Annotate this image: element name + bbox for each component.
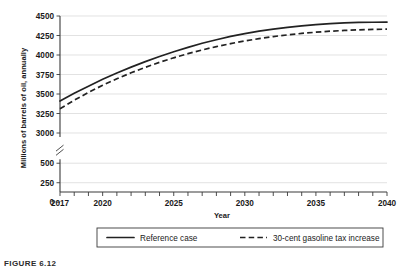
- figure-container: 02505003000325035003750400042504500 2017…: [0, 0, 413, 275]
- y-axis-group: [57, 16, 61, 202]
- gridlines-group: [60, 16, 387, 183]
- series-line-tax-increase: [60, 29, 387, 109]
- x-tick-label: 2025: [165, 199, 184, 208]
- x-axis-tick-labels: 201720202025203020352040: [51, 199, 397, 208]
- x-tick-label: 2040: [378, 199, 397, 208]
- x-tick-label: 2020: [94, 199, 113, 208]
- legend-label: 30-cent gasoline tax increase: [273, 234, 380, 243]
- legend-label: Reference case: [140, 234, 198, 243]
- series-group: [60, 22, 387, 109]
- x-axis-title: Year: [214, 211, 230, 220]
- y-tick-label: 4500: [36, 12, 55, 21]
- x-tick-label: 2035: [307, 199, 326, 208]
- axis-break-marker: [56, 145, 64, 155]
- figure-caption: FIGURE 6.12: [4, 259, 56, 268]
- x-tick-label: 2030: [236, 199, 255, 208]
- y-tick-label: 4250: [36, 32, 55, 41]
- y-tick-label: 500: [40, 159, 54, 168]
- y-tick-label: 4000: [36, 51, 55, 60]
- y-tick-label: 3000: [36, 129, 55, 138]
- x-tick-label: 2017: [51, 199, 70, 208]
- legend: Reference case30-cent gasoline tax incre…: [97, 228, 383, 247]
- y-axis-title: Millions of barrels of oil, annually: [19, 47, 28, 168]
- line-chart: 02505003000325035003750400042504500 2017…: [0, 0, 413, 275]
- y-axis-tick-labels: 02505003000325035003750400042504500: [36, 12, 55, 207]
- y-tick-label: 250: [40, 179, 54, 188]
- y-tick-label: 3500: [36, 90, 55, 99]
- series-line-reference-case: [60, 22, 387, 101]
- y-tick-label: 3250: [36, 110, 55, 119]
- x-axis-group: [60, 192, 387, 196]
- y-tick-label: 3750: [36, 71, 55, 80]
